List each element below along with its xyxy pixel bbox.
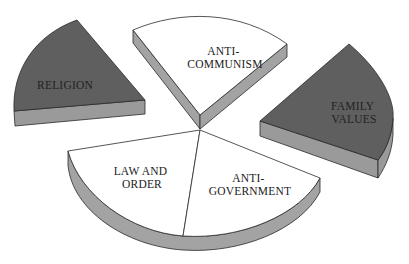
segment-religion: RELIGION	[14, 20, 145, 126]
family-values-label: FAMILY VALUES	[331, 100, 377, 125]
exploded-3d-pie-diagram: RELIGION ANTI- COMMUNISM FAMILY VALUES	[0, 0, 409, 264]
law-and-order-label: LAW AND ORDER	[114, 165, 171, 190]
segment-law-and-order: LAW AND ORDER	[68, 130, 200, 236]
segment-family-values: FAMILY VALUES	[260, 44, 393, 178]
religion-label: RELIGION	[37, 79, 93, 91]
segment-anti-communism: ANTI- COMMUNISM	[133, 16, 287, 129]
religion-top	[14, 20, 145, 111]
